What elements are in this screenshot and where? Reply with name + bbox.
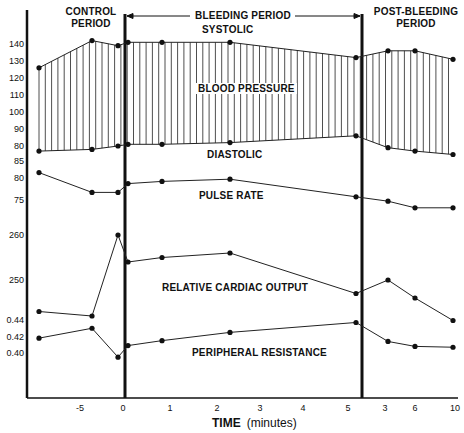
data-point xyxy=(450,345,455,350)
relative-cardiac-output-line xyxy=(39,235,453,321)
cardiac-output-label: RELATIVE CARDIAC OUTPUT xyxy=(162,282,308,293)
data-point xyxy=(115,43,120,48)
data-point xyxy=(125,259,130,264)
data-point xyxy=(125,40,130,45)
x-tick-5: 5 xyxy=(336,403,360,413)
y-tick-bp-130: 130 xyxy=(0,56,24,66)
blood-pressure-hatch xyxy=(39,41,449,154)
post-bleeding-line1: POST-BLEEDING xyxy=(370,6,462,18)
data-point xyxy=(385,48,390,53)
x-tick-0: 0 xyxy=(111,403,135,413)
x-tick-neg5: -5 xyxy=(68,403,92,413)
x-tick-3: 3 xyxy=(248,403,272,413)
data-point xyxy=(450,318,455,323)
y-tick-co-260: 260 xyxy=(0,230,24,240)
y-tick-pulse-85: 85 xyxy=(0,156,24,166)
y-tick-co-250: 250 xyxy=(0,275,24,285)
pulse-rate-label: PULSE RATE xyxy=(199,190,264,201)
diastolic-label: DIASTOLIC xyxy=(207,149,263,160)
systolic-line xyxy=(39,41,453,68)
control-period-label: CONTROL PERIOD xyxy=(56,6,126,30)
data-point xyxy=(125,343,130,348)
data-point xyxy=(36,309,41,314)
y-tick-bp-80: 80 xyxy=(0,141,24,151)
data-point xyxy=(385,277,390,282)
x-axis-unit: (minutes) xyxy=(247,416,297,430)
y-tick-pr-040: 0.40 xyxy=(0,348,24,358)
data-point xyxy=(385,339,390,344)
blood-pressure-label: BLOOD PRESSURE xyxy=(196,83,297,94)
data-point xyxy=(36,336,41,341)
x-tick-post-6: 6 xyxy=(403,403,427,413)
data-point xyxy=(89,38,94,43)
data-point xyxy=(450,205,455,210)
data-point xyxy=(353,133,358,138)
data-point xyxy=(89,326,94,331)
data-point xyxy=(36,149,41,154)
data-point xyxy=(450,152,455,157)
data-point xyxy=(227,40,232,45)
x-tick-4: 4 xyxy=(291,403,315,413)
y-tick-bp-90: 90 xyxy=(0,124,24,134)
y-tick-bp-120: 120 xyxy=(0,73,24,83)
data-point xyxy=(412,295,417,300)
bleeding-period-label: BLEEDING PERIOD xyxy=(192,10,294,21)
data-point xyxy=(385,199,390,204)
x-tick-2: 2 xyxy=(205,403,229,413)
data-point xyxy=(412,205,417,210)
post-bleeding-line2: PERIOD xyxy=(370,18,462,30)
systolic-label: SYSTOLIC xyxy=(200,24,255,35)
data-point xyxy=(125,181,130,186)
data-point xyxy=(89,190,94,195)
data-point xyxy=(412,344,417,349)
data-point xyxy=(36,170,41,175)
data-point xyxy=(159,179,164,184)
data-point xyxy=(227,330,232,335)
x-tick-post-10: 10 xyxy=(443,403,464,413)
y-tick-bp-140: 140 xyxy=(0,39,24,49)
y-tick-pulse-80: 80 xyxy=(0,173,24,183)
x-axis-title-text: TIME xyxy=(212,416,241,430)
y-tick-bp-110: 110 xyxy=(0,90,24,100)
x-tick-post-3: 3 xyxy=(373,403,397,413)
data-point xyxy=(115,143,120,148)
data-point xyxy=(125,142,130,147)
data-point xyxy=(385,145,390,150)
x-axis-title: TIME(minutes) xyxy=(212,416,297,430)
data-point xyxy=(159,255,164,260)
control-period-line1: CONTROL xyxy=(56,6,126,18)
y-tick-pulse-75: 75 xyxy=(0,195,24,205)
x-tick-1: 1 xyxy=(158,403,182,413)
data-point xyxy=(115,355,120,360)
data-point xyxy=(353,194,358,199)
post-bleeding-period-label: POST-BLEEDING PERIOD xyxy=(370,6,462,30)
data-point xyxy=(159,40,164,45)
data-point xyxy=(412,48,417,53)
data-point xyxy=(412,149,417,154)
y-tick-bp-100: 100 xyxy=(0,107,24,117)
peripheral-resistance-label: PERIPHERAL RESISTANCE xyxy=(192,347,327,358)
data-point xyxy=(227,177,232,182)
data-point xyxy=(115,232,120,237)
chart-canvas xyxy=(0,0,464,433)
data-point xyxy=(353,55,358,60)
data-point xyxy=(227,140,232,145)
data-point xyxy=(227,250,232,255)
data-point xyxy=(89,147,94,152)
y-tick-pr-044: 0.44 xyxy=(0,315,24,325)
data-point xyxy=(159,142,164,147)
data-point xyxy=(353,291,358,296)
data-point xyxy=(450,57,455,62)
data-point xyxy=(89,313,94,318)
data-point xyxy=(36,65,41,70)
y-tick-pr-042: 0.42 xyxy=(0,332,24,342)
data-point xyxy=(353,320,358,325)
data-point xyxy=(159,338,164,343)
control-period-line2: PERIOD xyxy=(56,18,126,30)
data-point xyxy=(115,190,120,195)
